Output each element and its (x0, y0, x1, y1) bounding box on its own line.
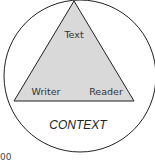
writer-label: Writer (32, 86, 61, 97)
text-label: Text (63, 29, 83, 40)
reader-label: Reader (89, 86, 123, 97)
context-diagram: Text Writer Reader CONTEXT 00 (0, 0, 155, 161)
context-label: CONTEXT (49, 118, 108, 132)
cropped-text-fragment: 00 (0, 152, 12, 161)
